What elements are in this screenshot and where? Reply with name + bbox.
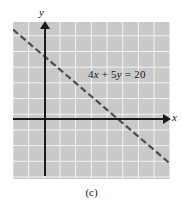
x-axis-arrow-icon (163, 114, 171, 124)
equation-plus: + (99, 68, 111, 80)
x-axis (13, 118, 165, 120)
y-axis (44, 28, 46, 176)
graph-line-svg (13, 22, 170, 179)
coordinate-plane-figure: y x 4x + 5y = 20 (c) (0, 0, 183, 210)
y-axis-arrow-icon (40, 21, 50, 29)
equation-equals: = (122, 68, 134, 80)
figure-caption: (c) (0, 186, 183, 198)
equation-annotation: 4x + 5y = 20 (88, 68, 146, 80)
y-axis-label: y (39, 7, 44, 18)
line-4x-plus-5y-equals-20 (13, 30, 170, 164)
x-axis-label: x (172, 112, 177, 123)
equation-constant: 20 (134, 68, 145, 80)
line-layer (13, 22, 170, 179)
